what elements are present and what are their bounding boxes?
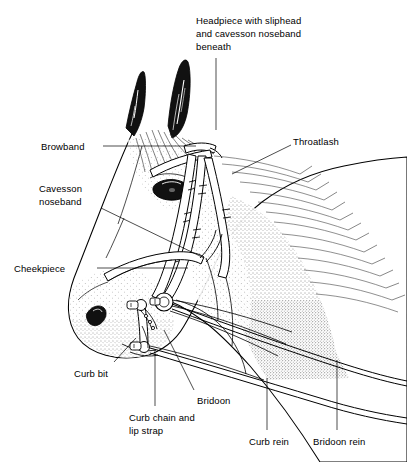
- mane: [214, 156, 398, 312]
- label-headpiece: Headpiece with sliphead and cavesson nos…: [196, 14, 301, 53]
- mouth-line: [122, 344, 158, 356]
- horse-head-illustration: [0, 0, 407, 462]
- sliphead-strap: [164, 156, 207, 298]
- nostril: [86, 306, 106, 326]
- bridoon-ring: [150, 293, 173, 311]
- curb-chain: [140, 308, 157, 330]
- leader-throatlash: [232, 145, 291, 174]
- muzzle-shading: [60, 260, 190, 370]
- label-bridoon-rein: Bridoon rein: [313, 435, 365, 448]
- leader-lines: [97, 58, 337, 430]
- label-cavesson-noseband: Cavesson noseband: [39, 182, 82, 208]
- head-contour-lines: [78, 146, 142, 300]
- label-curb-chain: Curb chain and lip strap: [129, 411, 195, 437]
- throatlash-strap: [204, 158, 231, 278]
- jaw-contours: [176, 258, 246, 374]
- eye: [150, 174, 192, 200]
- bridoon-rein: [172, 304, 407, 386]
- leader-cavesson: [101, 208, 204, 258]
- label-curb-bit: Curb bit: [74, 367, 108, 380]
- rein-converging-lines: [150, 300, 292, 380]
- label-bridoon: Bridoon: [197, 394, 230, 407]
- leader-curb-bit: [114, 338, 136, 362]
- label-throatlash: Throatlash: [293, 135, 339, 148]
- forehead-shading: [120, 135, 230, 235]
- label-curb-rein: Curb rein: [249, 435, 289, 448]
- curb-bit: [127, 300, 150, 353]
- forelock: [136, 130, 214, 172]
- right-ear: [168, 60, 190, 138]
- bridle-diagram-figure: Headpiece with sliphead and cavesson nos…: [0, 0, 407, 462]
- label-cheekpiece: Cheekpiece: [14, 262, 65, 275]
- left-ear: [126, 71, 146, 136]
- headpiece-strap: [184, 143, 222, 158]
- neck-shading: [210, 180, 372, 395]
- lip-strap: [142, 326, 148, 348]
- browband-strap: [150, 150, 212, 177]
- mane-edge-hairs: [300, 166, 405, 300]
- label-browband: Browband: [41, 140, 85, 153]
- cheekpiece-strap: [152, 154, 197, 300]
- cavesson-noseband-strap: [104, 230, 222, 281]
- cheek-shading: [180, 190, 270, 340]
- horse-head-outline: [68, 124, 407, 462]
- leader-bridoon: [164, 330, 194, 390]
- noseband-edge-line: [108, 260, 172, 281]
